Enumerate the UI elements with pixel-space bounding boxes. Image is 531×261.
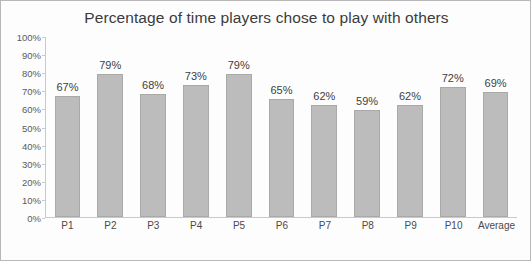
bar[interactable] (140, 94, 166, 217)
bar-value-label: 79% (89, 59, 132, 71)
x-tick-label: P9 (389, 220, 432, 231)
x-tick-label: P4 (175, 220, 218, 231)
y-tick-label: 90% (22, 50, 41, 61)
y-tick-mark (42, 218, 45, 219)
bar-slot: 62% (303, 37, 346, 217)
y-tick-mark (42, 73, 45, 74)
y-tick-mark (42, 128, 45, 129)
bar[interactable] (269, 99, 295, 217)
y-tick-label: 100% (17, 32, 41, 43)
bar-value-label: 68% (132, 79, 175, 91)
x-tick-label: P1 (46, 220, 89, 231)
x-tick-label: P7 (303, 220, 346, 231)
bar-slot: 65% (260, 37, 303, 217)
y-tick-label: 20% (22, 176, 41, 187)
bar[interactable] (226, 74, 252, 217)
bar[interactable] (97, 74, 123, 217)
bar-value-label: 59% (346, 95, 389, 107)
bar-value-label: 62% (303, 90, 346, 102)
bar[interactable] (440, 87, 466, 217)
y-tick-mark (42, 200, 45, 201)
x-tick-label: P5 (218, 220, 261, 231)
bar-slot: 62% (389, 37, 432, 217)
y-tick-label: 40% (22, 140, 41, 151)
y-tick-label: 60% (22, 104, 41, 115)
bar-value-label: 62% (389, 90, 432, 102)
bar-value-label: 69% (474, 77, 517, 89)
x-tick-label: P8 (346, 220, 389, 231)
y-tick-label: 70% (22, 86, 41, 97)
x-tick-label: P10 (432, 220, 475, 231)
plot-area: 0%10%20%30%40%50%60%70%80%90%100% 67%79%… (45, 37, 517, 218)
y-tick-mark (42, 164, 45, 165)
chart-title: Percentage of time players chose to play… (1, 9, 531, 27)
bar-series: 67%79%68%73%79%65%62%59%62%72%69% (46, 37, 517, 217)
y-tick-mark (42, 109, 45, 110)
bar-value-label: 65% (260, 84, 303, 96)
y-tick-mark (42, 37, 45, 38)
bar-value-label: 73% (174, 70, 217, 82)
bar-slot: 67% (46, 37, 89, 217)
y-tick-mark (42, 146, 45, 147)
bar[interactable] (354, 110, 380, 217)
bar-value-label: 72% (431, 72, 474, 84)
bar[interactable] (311, 105, 337, 217)
bar-slot: 68% (132, 37, 175, 217)
bar[interactable] (183, 85, 209, 217)
y-tick-label: 80% (22, 68, 41, 79)
bar-slot: 79% (217, 37, 260, 217)
bar-slot: 79% (89, 37, 132, 217)
x-tick-label: P2 (89, 220, 132, 231)
bar[interactable] (55, 96, 81, 217)
x-tick-label: P3 (132, 220, 175, 231)
y-tick-label: 30% (22, 158, 41, 169)
y-tick-label: 10% (22, 194, 41, 205)
bar-slot: 73% (174, 37, 217, 217)
bar-chart: Percentage of time players chose to play… (0, 0, 531, 261)
y-tick-mark (42, 91, 45, 92)
x-axis-line (45, 217, 517, 218)
bar[interactable] (483, 92, 509, 217)
x-axis-labels: P1P2P3P4P5P6P7P8P9P10Average (46, 220, 518, 231)
bar-value-label: 67% (46, 81, 89, 93)
bar-slot: 72% (431, 37, 474, 217)
x-tick-label: P6 (261, 220, 304, 231)
y-tick-label: 50% (22, 122, 41, 133)
y-tick-mark (42, 182, 45, 183)
bar[interactable] (397, 105, 423, 217)
bar-value-label: 79% (217, 59, 260, 71)
bar-slot: 59% (346, 37, 389, 217)
y-tick-mark (42, 55, 45, 56)
x-tick-label: Average (475, 220, 518, 231)
bar-slot: 69% (474, 37, 517, 217)
y-tick-label: 0% (27, 213, 41, 224)
